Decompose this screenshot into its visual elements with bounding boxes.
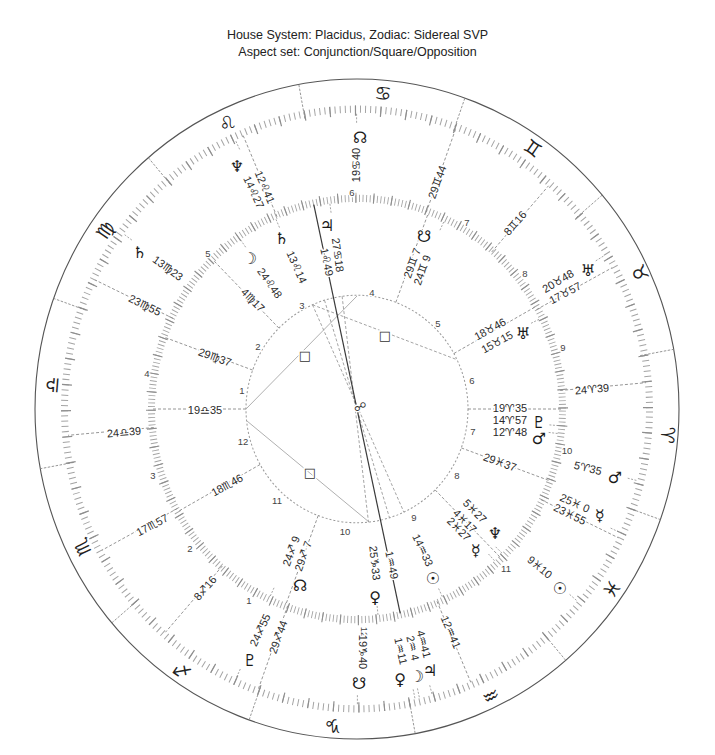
sign-boundary-line — [54, 298, 86, 310]
inner-house-number: 9 — [411, 512, 416, 523]
outer-house-number: 2 — [187, 543, 192, 554]
cancer-icon: ♋ — [374, 81, 393, 104]
inner-cusp-label: 1♒49 — [383, 550, 401, 580]
outer-house-number: 9 — [560, 342, 565, 353]
saturn-icon: ♄ — [133, 243, 147, 262]
inner-cusp-label: 29♍37 — [196, 345, 233, 369]
mars-icon: ♂ — [532, 429, 546, 448]
outer-planet-position: 19♑40 — [357, 635, 369, 669]
south-node-icon: ☋ — [417, 227, 431, 246]
planet-pointer — [417, 688, 419, 697]
aries-icon: ♈ — [656, 426, 679, 445]
outer-planet-position: 13♍23 — [150, 253, 185, 284]
planet-pointer — [439, 588, 443, 596]
neptune-icon: ♆ — [230, 157, 244, 176]
planet-pointer — [125, 235, 132, 240]
virgo-icon: ♍ — [91, 217, 119, 244]
inner-planet-position: 25♑33 — [367, 545, 383, 580]
outer-planet-position: 19♋40 — [350, 148, 362, 182]
sagittarius-icon: ♐ — [169, 657, 196, 685]
jupiter-icon: ♃ — [320, 216, 334, 235]
taurus-icon: ♉ — [626, 261, 653, 286]
sign-boundary-line — [628, 508, 660, 520]
square-aspect-icon: □ — [304, 465, 316, 480]
outer-house-number: 8 — [522, 268, 527, 279]
inner-cusp-label: 18♏46 — [209, 471, 245, 498]
libra-icon: ♎ — [40, 376, 63, 395]
inner-house-number: 10 — [340, 526, 351, 537]
planet-pointer — [549, 425, 558, 426]
outer-cusp-label: 29♐44 — [266, 619, 289, 655]
outer-house-number: 3 — [150, 470, 155, 481]
planet-pointer — [241, 240, 246, 248]
outer-cusp-label: 23♍55 — [126, 292, 163, 319]
sign-boundary-line — [454, 98, 465, 131]
uranus-icon: ♅ — [516, 324, 530, 343]
south-node-icon: ☋ — [352, 674, 366, 693]
planet-pointer — [413, 689, 415, 698]
outer-house-number: 5 — [205, 248, 210, 259]
planet-pointer — [237, 669, 241, 677]
square-aspect-icon: □ — [379, 328, 391, 343]
sign-boundary-line — [544, 634, 566, 661]
inner-planet-position: 24♌48 — [255, 265, 285, 300]
gemini-icon: ♊ — [520, 134, 547, 162]
planet-pointer — [440, 222, 444, 230]
neptune-icon: ♆ — [488, 524, 502, 543]
venus-icon: ♀ — [369, 588, 381, 607]
sun-icon: ☉ — [426, 569, 440, 588]
chart-wheel: ♈ ♉ ♊ ♋ ♌ ♍ ♎ ♏ ♐ ♑ ♒ ♓ 1 2 3 4 5 6 7 8 … — [0, 0, 715, 755]
inner-cusp-label: 19♈35 — [493, 402, 527, 414]
sign-boundary-line — [409, 699, 415, 733]
outer-cusp-label: 8♐16 — [191, 573, 219, 602]
outer-cusp-line — [166, 566, 223, 632]
outer-cusp-label: 12♒41 — [439, 614, 463, 650]
outer-cusp-label: 24♈39 — [574, 382, 609, 397]
planet-pointer — [377, 606, 378, 615]
inner-house-number: 12 — [238, 436, 249, 447]
inner-planet-position: 12♈48 — [493, 426, 527, 438]
inner-cusp-label: 4♍17 — [238, 286, 267, 315]
inner-cusp-label: 29♓37 — [482, 450, 518, 473]
outer-house-number: 1 — [246, 595, 251, 606]
jupiter-icon: ♃ — [423, 661, 437, 680]
sign-boundary-line — [249, 687, 260, 720]
sign-boundary-line — [576, 195, 602, 218]
aquarius-icon: ♒ — [479, 682, 504, 709]
planet-pointer — [330, 204, 331, 213]
planet-pointer — [496, 547, 503, 554]
inner-planet-position: 14♒33 — [410, 532, 435, 568]
planet-pointer — [236, 141, 240, 149]
venus-icon: ♀ — [394, 670, 406, 689]
outer-planet-position: 9♓10 — [525, 553, 554, 580]
outer-cusp-label: 8♊16 — [501, 208, 529, 237]
saturn-icon: ♄ — [275, 229, 289, 248]
planet-pointer — [628, 478, 637, 480]
uranus-icon: ♅ — [581, 261, 595, 280]
planet-pointer — [611, 528, 619, 532]
mercury-icon: ☿ — [595, 506, 605, 525]
inner-planet-position: 13♌14 — [285, 249, 310, 285]
moon-icon: ☽ — [243, 249, 257, 268]
inner-house-number: 11 — [272, 495, 282, 506]
north-node-icon: ☊ — [293, 576, 307, 595]
inner-house-number: 4 — [369, 287, 374, 298]
outer-cusp-label: 24♎39 — [106, 425, 141, 440]
outer-house-number: 11 — [501, 563, 511, 574]
inner-house-number: 7 — [470, 426, 475, 437]
sign-boundary-line — [148, 158, 170, 185]
outer-cusp-label: 29♊44 — [425, 164, 448, 200]
capricorn-icon: ♑ — [324, 714, 343, 737]
outer-house-number: 4 — [144, 368, 149, 379]
moon-icon: ☽ — [410, 667, 424, 686]
planet-pointer — [270, 588, 274, 596]
outer-house-number: 6 — [349, 187, 354, 198]
north-node-icon: ☊ — [353, 128, 367, 147]
inner-cusp-label: 19♎35 — [188, 404, 222, 416]
inner-house-number: 3 — [299, 300, 304, 311]
planet-pointer — [276, 219, 280, 228]
inner-planet-position: 14♈57 — [493, 414, 527, 426]
planet-pointer — [488, 554, 494, 561]
inner-house-number: 5 — [435, 318, 440, 329]
mars-icon: ♂ — [608, 468, 622, 487]
